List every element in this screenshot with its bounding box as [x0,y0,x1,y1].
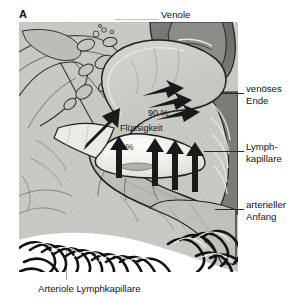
figure-caption: Arteriole Lymphkapillare [38,283,141,295]
annotation-90-percent: 90 % [148,108,169,118]
annotation-10-percent: 10 % [113,142,134,152]
annotation-fluessigkeit: Flüssigkeit [120,123,163,133]
label-lymph-capillare-line2: kapillare [246,153,282,165]
leader-line-arterial-start [215,209,244,210]
leader-line-venole [115,19,159,20]
label-arterial-start-line2: Anfang [246,211,286,223]
label-venous-end: venöses Ende [246,83,282,106]
label-lymph-capillare: Lymph- kapillare [246,141,282,164]
leader-line-caption [66,250,67,280]
leader-line-venous-end [222,93,244,94]
label-arterial-start-line1: arterieller [246,199,286,211]
label-venous-end-line2: Ende [246,95,282,107]
leader-line-lymph-capillare [204,151,244,152]
label-venous-end-line1: venöses [246,83,282,95]
label-arterial-start: arterieller Anfang [246,199,286,222]
figure-panel-a: A [0,0,301,302]
label-venole: Venole [161,9,190,21]
label-lymph-capillare-line1: Lymph- [246,141,282,153]
